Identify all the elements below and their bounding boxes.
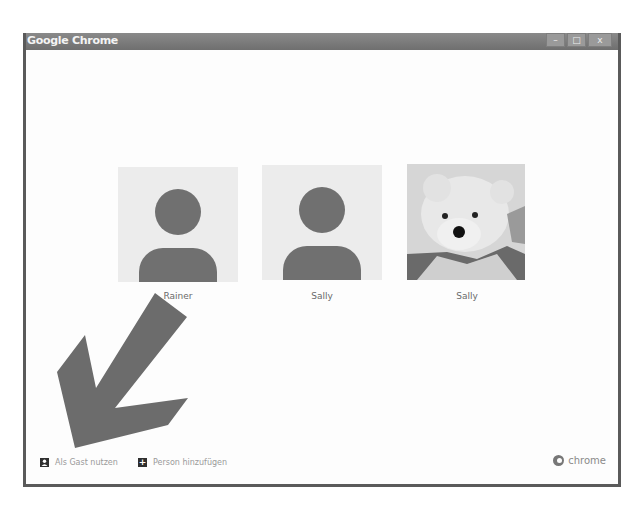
window-controls: – □ x [546,33,612,47]
profile-picker: Rainer Sally Sally [26,50,618,484]
guest-button[interactable]: Als Gast nutzen [40,458,118,467]
chrome-branding: chrome [553,455,606,466]
maximize-button[interactable]: □ [567,33,586,47]
person-head-icon [299,187,345,233]
title-bar[interactable]: Google Chrome – □ x [26,33,618,50]
profile-tile-sally-bear[interactable] [407,164,525,280]
add-person-button[interactable]: + Person hinzufügen [138,458,227,467]
teddy-bear-avatar-icon [407,164,525,280]
chrome-brand-label: chrome [568,455,606,466]
profile-tile-sally[interactable] [262,165,382,280]
profile-tile-rainer[interactable] [118,167,238,282]
close-button[interactable]: x [588,33,612,47]
person-body-icon [139,248,217,282]
minimize-button[interactable]: – [546,33,565,47]
add-person-label: Person hinzufügen [153,458,227,467]
person-head-icon [155,189,201,235]
profile-name[interactable]: Sally [262,291,382,301]
chrome-logo-icon [553,455,564,466]
profile-name[interactable]: Sally [407,291,527,301]
chrome-window: Google Chrome – □ x Rainer Sally [23,33,621,487]
guest-label: Als Gast nutzen [55,458,118,467]
plus-icon: + [138,458,147,467]
window-title: Google Chrome [27,34,118,47]
profile-name[interactable]: Rainer [118,291,238,301]
person-icon [40,458,49,467]
person-body-icon [283,246,361,280]
